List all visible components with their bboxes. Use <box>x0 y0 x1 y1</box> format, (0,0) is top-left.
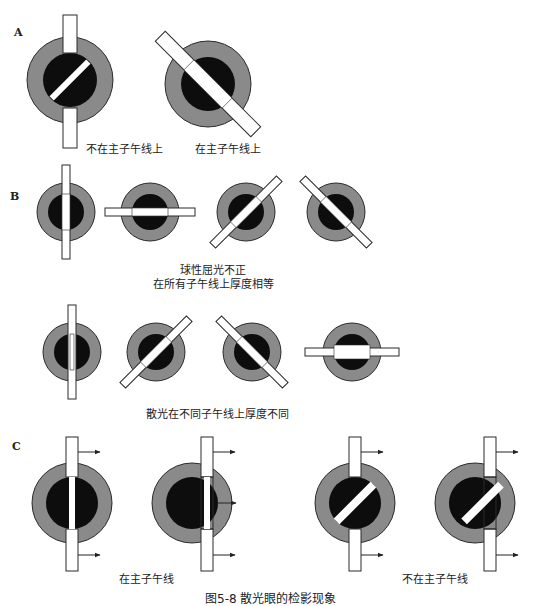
eye-c-1 <box>32 437 112 571</box>
label-c-on-meridian: 在主子午线 <box>119 570 174 586</box>
caption-b-spherical-line2: 在所有子午线上厚度相等 <box>153 275 274 291</box>
eye-a1 <box>27 15 113 148</box>
caption-b-astigmatism: 散光在不同子午线上厚度不同 <box>146 405 289 421</box>
eye-c-3 <box>315 437 395 571</box>
pupil-reflex <box>70 334 74 370</box>
pupil-reflex <box>62 194 70 230</box>
eye-b1-4 <box>300 176 372 248</box>
pupil-reflex <box>334 345 370 359</box>
beam <box>62 165 70 259</box>
beam-bar-top <box>66 437 78 477</box>
beam-bar-top <box>484 437 496 477</box>
beam-bar-top <box>349 437 361 477</box>
pupil-streak <box>69 477 75 529</box>
beam-bar-bottom <box>63 108 77 148</box>
pupil <box>449 477 501 529</box>
figure-caption: 图5-8 散光眼的检影现象 <box>205 589 336 606</box>
label-c-off-meridian: 不在主子午线 <box>402 570 468 586</box>
eye-b1-3 <box>210 176 282 248</box>
beam-bar-top <box>201 437 213 477</box>
section-a-letter: A <box>14 26 23 39</box>
beam-bar-top <box>63 15 77 53</box>
eye-b2-4 <box>305 323 399 381</box>
eye-b2-3 <box>216 316 288 388</box>
eye-a2 <box>155 31 260 136</box>
pupil <box>166 477 218 529</box>
beam-bar-bottom <box>201 529 213 571</box>
beam <box>105 208 195 216</box>
pupil-streak <box>204 477 210 529</box>
eye-b1-2 <box>105 183 195 241</box>
beam-bar-bottom <box>349 529 361 571</box>
beam <box>68 305 76 399</box>
beam-bar-bottom <box>484 529 496 571</box>
pupil-reflex <box>132 208 168 216</box>
eye-c-2 <box>152 437 236 571</box>
beam <box>305 345 399 359</box>
section-c-letter: C <box>12 440 21 453</box>
label-a2-on-meridian: 在主子午线上 <box>195 140 261 156</box>
eye-b1-1 <box>37 165 95 259</box>
section-b-letter: B <box>10 190 19 203</box>
eye-b2-2 <box>120 316 192 388</box>
label-a1-off-meridian: 不在主子午线上 <box>86 140 163 156</box>
eye-c-4 <box>435 437 518 571</box>
eye-b2-1 <box>43 305 101 399</box>
beam-bar-bottom <box>66 529 78 571</box>
